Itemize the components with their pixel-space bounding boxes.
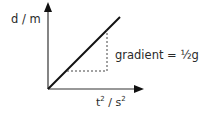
y-axis-label: d / m	[11, 14, 41, 26]
y-axis-arrow-icon	[44, 2, 52, 12]
x-label-unit-exp: 2	[121, 95, 125, 103]
x-axis-label: t2 / s2	[96, 97, 126, 108]
x-label-sep: /	[105, 96, 116, 109]
x-axis-arrow-icon	[134, 85, 144, 93]
x-axis	[48, 85, 144, 93]
data-line	[48, 17, 120, 89]
y-axis	[44, 2, 52, 89]
gradient-annotation: gradient = ½g	[115, 50, 199, 62]
